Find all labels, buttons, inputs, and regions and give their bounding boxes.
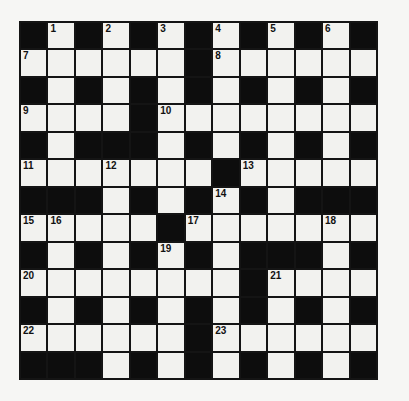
white-cell[interactable]: 4: [213, 23, 238, 48]
white-cell[interactable]: [76, 105, 101, 130]
white-cell[interactable]: [76, 270, 101, 295]
white-cell[interactable]: [186, 105, 211, 130]
white-cell[interactable]: [323, 50, 348, 75]
white-cell[interactable]: [158, 353, 183, 378]
white-cell[interactable]: 19: [158, 243, 183, 268]
white-cell[interactable]: [323, 78, 348, 103]
white-cell[interactable]: 20: [21, 270, 46, 295]
white-cell[interactable]: 9: [21, 105, 46, 130]
white-cell[interactable]: [268, 105, 293, 130]
white-cell[interactable]: [103, 270, 128, 295]
white-cell[interactable]: [186, 160, 211, 185]
white-cell[interactable]: [351, 105, 376, 130]
white-cell[interactable]: [351, 215, 376, 240]
white-cell[interactable]: 8: [213, 50, 238, 75]
white-cell[interactable]: [241, 105, 266, 130]
white-cell[interactable]: [323, 270, 348, 295]
white-cell[interactable]: [131, 160, 156, 185]
white-cell[interactable]: [268, 353, 293, 378]
white-cell[interactable]: [186, 270, 211, 295]
white-cell[interactable]: 14: [213, 188, 238, 213]
white-cell[interactable]: [323, 298, 348, 323]
white-cell[interactable]: [158, 188, 183, 213]
white-cell[interactable]: [103, 188, 128, 213]
white-cell[interactable]: [213, 133, 238, 158]
white-cell[interactable]: [76, 215, 101, 240]
white-cell[interactable]: [158, 50, 183, 75]
white-cell[interactable]: [351, 160, 376, 185]
white-cell[interactable]: [48, 160, 73, 185]
white-cell[interactable]: [158, 270, 183, 295]
white-cell[interactable]: [48, 133, 73, 158]
white-cell[interactable]: [323, 160, 348, 185]
white-cell[interactable]: [351, 270, 376, 295]
white-cell[interactable]: 13: [241, 160, 266, 185]
white-cell[interactable]: [213, 105, 238, 130]
white-cell[interactable]: 3: [158, 23, 183, 48]
white-cell[interactable]: [158, 160, 183, 185]
white-cell[interactable]: [351, 50, 376, 75]
white-cell[interactable]: 18: [323, 215, 348, 240]
white-cell[interactable]: [158, 78, 183, 103]
white-cell[interactable]: [241, 215, 266, 240]
white-cell[interactable]: [268, 78, 293, 103]
white-cell[interactable]: [48, 243, 73, 268]
white-cell[interactable]: [103, 325, 128, 350]
white-cell[interactable]: 7: [21, 50, 46, 75]
white-cell[interactable]: [323, 353, 348, 378]
white-cell[interactable]: [103, 215, 128, 240]
white-cell[interactable]: [213, 78, 238, 103]
white-cell[interactable]: [213, 298, 238, 323]
white-cell[interactable]: [103, 50, 128, 75]
white-cell[interactable]: 21: [268, 270, 293, 295]
white-cell[interactable]: [268, 298, 293, 323]
white-cell[interactable]: 23: [213, 325, 238, 350]
white-cell[interactable]: [103, 78, 128, 103]
white-cell[interactable]: [48, 270, 73, 295]
white-cell[interactable]: 10: [158, 105, 183, 130]
white-cell[interactable]: [323, 243, 348, 268]
white-cell[interactable]: 2: [103, 23, 128, 48]
white-cell[interactable]: [48, 78, 73, 103]
white-cell[interactable]: 15: [21, 215, 46, 240]
white-cell[interactable]: [268, 133, 293, 158]
white-cell[interactable]: [103, 298, 128, 323]
white-cell[interactable]: [213, 243, 238, 268]
white-cell[interactable]: 1: [48, 23, 73, 48]
white-cell[interactable]: [213, 270, 238, 295]
white-cell[interactable]: [158, 325, 183, 350]
white-cell[interactable]: [103, 105, 128, 130]
white-cell[interactable]: [268, 215, 293, 240]
white-cell[interactable]: [213, 215, 238, 240]
white-cell[interactable]: 6: [323, 23, 348, 48]
white-cell[interactable]: 17: [186, 215, 211, 240]
white-cell[interactable]: [131, 270, 156, 295]
white-cell[interactable]: [268, 160, 293, 185]
white-cell[interactable]: 22: [21, 325, 46, 350]
white-cell[interactable]: [296, 50, 321, 75]
white-cell[interactable]: [213, 353, 238, 378]
white-cell[interactable]: [76, 325, 101, 350]
white-cell[interactable]: [103, 353, 128, 378]
white-cell[interactable]: [323, 325, 348, 350]
white-cell[interactable]: 5: [268, 23, 293, 48]
white-cell[interactable]: [323, 105, 348, 130]
white-cell[interactable]: 16: [48, 215, 73, 240]
white-cell[interactable]: [158, 133, 183, 158]
white-cell[interactable]: [131, 325, 156, 350]
white-cell[interactable]: [268, 325, 293, 350]
white-cell[interactable]: [48, 105, 73, 130]
white-cell[interactable]: [351, 325, 376, 350]
white-cell[interactable]: [48, 325, 73, 350]
white-cell[interactable]: [48, 298, 73, 323]
white-cell[interactable]: [76, 50, 101, 75]
white-cell[interactable]: [103, 243, 128, 268]
white-cell[interactable]: [323, 133, 348, 158]
white-cell[interactable]: [296, 270, 321, 295]
white-cell[interactable]: [296, 215, 321, 240]
white-cell[interactable]: 12: [103, 160, 128, 185]
white-cell[interactable]: [296, 105, 321, 130]
white-cell[interactable]: [158, 298, 183, 323]
white-cell[interactable]: [241, 50, 266, 75]
white-cell[interactable]: [131, 50, 156, 75]
